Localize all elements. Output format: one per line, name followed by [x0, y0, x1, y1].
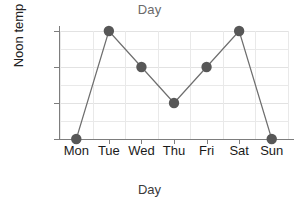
- x-axis-title: Day: [0, 182, 299, 197]
- data-point-marker[interactable]: [201, 62, 211, 72]
- y-axis-title: Noon temp: [11, 0, 26, 92]
- line-chart: Day Noon temp 14151617 MonTueWedThuFriSa…: [0, 0, 299, 199]
- y-tick-mark: [54, 139, 60, 140]
- data-series: [60, 31, 288, 139]
- gridline-vertical: [288, 31, 289, 139]
- data-point-marker[interactable]: [267, 134, 277, 144]
- data-point-marker[interactable]: [169, 98, 179, 108]
- data-point-marker[interactable]: [234, 26, 244, 36]
- data-point-marker[interactable]: [104, 26, 114, 36]
- data-point-marker[interactable]: [71, 134, 81, 144]
- plot-area: 14151617 MonTueWedThuFriSatSun: [60, 31, 288, 139]
- data-point-marker[interactable]: [136, 62, 146, 72]
- x-tick-label: Sun: [250, 143, 294, 158]
- chart-title: Day: [0, 2, 299, 17]
- series-line: [76, 31, 271, 139]
